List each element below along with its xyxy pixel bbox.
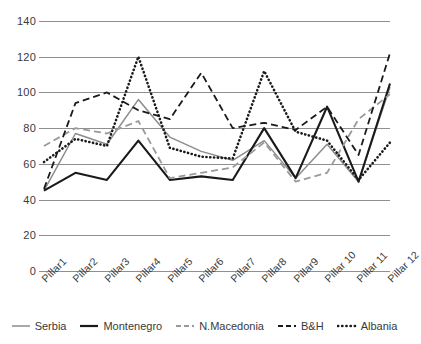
legend-swatch-solid (79, 321, 99, 331)
series-layer (44, 21, 390, 271)
legend-swatch-dotted (337, 321, 357, 331)
chart-legend: SerbiaMontenegroN.MacedoniaB&HAlbania (0, 316, 408, 336)
y-tick-label-60: 60 (4, 159, 36, 170)
y-tick-label-80: 80 (4, 123, 36, 134)
series-line-n-macedonia (44, 94, 390, 182)
x-axis-labels: Pillar1Pillar2Pillar3Pillar4Pillar5Pilla… (0, 274, 408, 314)
series-line-albania (44, 57, 390, 180)
legend-item-serbia[interactable]: Serbia (11, 320, 67, 332)
legend-item-n-macedonia[interactable]: N.Macedonia (175, 320, 264, 332)
y-tick-label-120: 120 (4, 52, 36, 63)
y-tick-label-40: 40 (4, 195, 36, 206)
legend-swatch-solid (11, 321, 31, 331)
legend-item-albania[interactable]: Albania (337, 320, 398, 332)
legend-item-b-h[interactable]: B&H (277, 320, 324, 332)
legend-item-montenegro[interactable]: Montenegro (79, 320, 162, 332)
y-tick-label-20: 20 (4, 230, 36, 241)
plot-area (44, 21, 390, 271)
legend-label: Serbia (35, 320, 67, 332)
legend-label: B&H (301, 320, 324, 332)
legend-label: N.Macedonia (199, 320, 264, 332)
x-tick-label-12: Pillar 12 (385, 249, 421, 285)
legend-label: Albania (361, 320, 398, 332)
legend-swatch-dashed (277, 321, 297, 331)
series-line-b-h (44, 53, 390, 189)
legend-swatch-dashed (175, 321, 195, 331)
series-line-serbia (44, 87, 390, 191)
y-tick-label-140: 140 (4, 16, 36, 27)
legend-label: Montenegro (103, 320, 162, 332)
y-tick-label-100: 100 (4, 87, 36, 98)
